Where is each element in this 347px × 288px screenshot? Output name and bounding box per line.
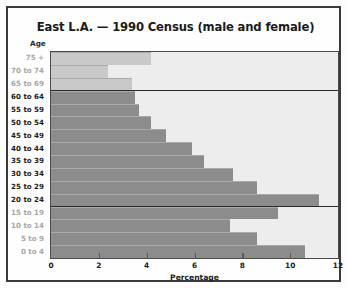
bar-row xyxy=(51,52,338,65)
y-axis-tick-label: 20 to 24 xyxy=(11,195,44,204)
figure-frame: East L.A. — 1990 Census (male and female… xyxy=(6,6,341,282)
y-axis-tick-label: 5 to 9 xyxy=(21,233,44,242)
x-axis-tick-label: 2 xyxy=(96,261,101,270)
y-axis-title: Age xyxy=(30,39,46,48)
bar xyxy=(51,65,108,78)
x-axis-title: Percentage xyxy=(50,273,339,282)
bar-row xyxy=(51,194,338,207)
x-axis-tick-label: 6 xyxy=(192,261,197,270)
bar-series xyxy=(51,52,338,258)
bar xyxy=(51,194,319,207)
y-axis-tick-label: 65 to 69 xyxy=(11,79,44,88)
x-axis-tick-label: 4 xyxy=(144,261,149,270)
y-axis-tick-label: 45 to 49 xyxy=(11,130,44,139)
plot-area xyxy=(50,51,339,259)
chart-title: East L.A. — 1990 Census (male and female… xyxy=(16,20,335,34)
x-axis-tick xyxy=(147,253,148,259)
x-axis-tick xyxy=(242,253,243,259)
x-axis-tick-label: 10 xyxy=(285,261,295,270)
bar-row xyxy=(51,142,338,155)
bar-row xyxy=(51,129,338,142)
bar xyxy=(51,245,305,258)
y-axis-tick-label: 25 to 29 xyxy=(11,182,44,191)
bar xyxy=(51,155,204,168)
bar xyxy=(51,129,166,142)
y-axis-tick-label: 55 to 59 xyxy=(11,104,44,113)
y-axis-tick-label: 75 + xyxy=(26,53,44,62)
bar-row xyxy=(51,65,338,78)
age-group-divider xyxy=(51,206,338,207)
x-axis-tick xyxy=(290,253,291,259)
y-axis-tick-label: 30 to 34 xyxy=(11,169,44,178)
y-axis-tick-label: 35 to 39 xyxy=(11,156,44,165)
bar-row xyxy=(51,181,338,194)
bar-row xyxy=(51,91,338,104)
bar xyxy=(51,181,257,194)
bar xyxy=(51,116,151,129)
bar-row xyxy=(51,104,338,117)
bar xyxy=(51,104,139,117)
age-group-divider xyxy=(51,90,338,91)
bar xyxy=(51,91,135,104)
y-axis-tick-label: 60 to 64 xyxy=(11,92,44,101)
bar-row xyxy=(51,155,338,168)
bar xyxy=(51,168,233,181)
bar xyxy=(51,78,132,91)
y-axis-tick-label: 40 to 44 xyxy=(11,143,44,152)
x-axis-tick-label: 0 xyxy=(48,261,53,270)
x-axis-tick xyxy=(195,253,196,259)
x-axis-tick-label: 8 xyxy=(240,261,245,270)
bar xyxy=(51,219,230,232)
y-axis-tick-label: 50 to 54 xyxy=(11,117,44,126)
x-axis-tick-labels: 024681012 xyxy=(50,261,339,273)
bar xyxy=(51,207,278,220)
bar xyxy=(51,52,151,65)
x-axis-tick-label: 12 xyxy=(333,261,343,270)
y-axis-tick-label: 15 to 19 xyxy=(11,207,44,216)
bar-row xyxy=(51,116,338,129)
bar-row xyxy=(51,168,338,181)
y-axis-tick-labels: 75 +70 to 7465 to 6960 to 6455 to 5950 t… xyxy=(8,51,47,259)
x-axis-tick xyxy=(99,253,100,259)
bar-row xyxy=(51,78,338,91)
bar xyxy=(51,142,192,155)
figure: East L.A. — 1990 Census (male and female… xyxy=(0,0,347,288)
y-axis-tick-label: 70 to 74 xyxy=(11,66,44,75)
y-axis-tick-label: 0 to 4 xyxy=(21,246,44,255)
bar xyxy=(51,232,257,245)
bar-row xyxy=(51,219,338,232)
y-axis-tick-label: 10 to 14 xyxy=(11,220,44,229)
bar-row xyxy=(51,207,338,220)
bar-row xyxy=(51,232,338,245)
